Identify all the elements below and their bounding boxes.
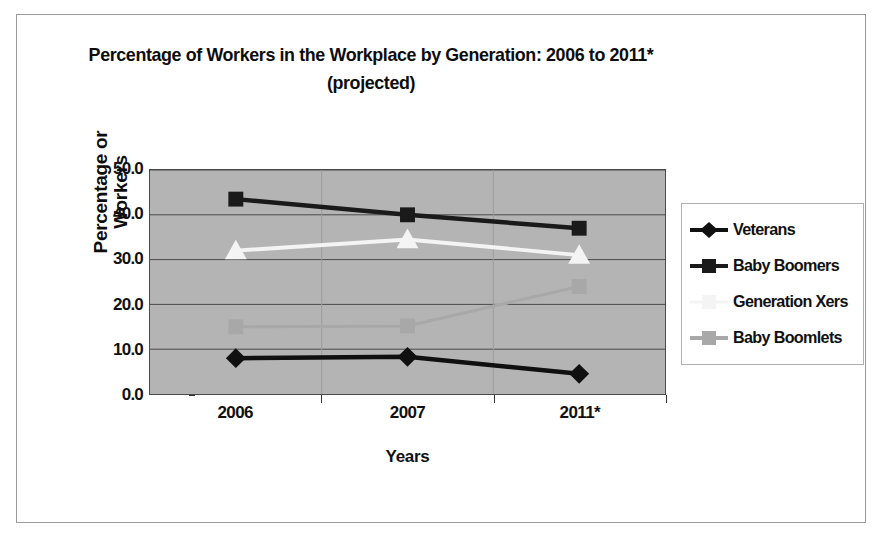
- x-axis-tick-label: 2011*: [525, 403, 635, 423]
- chart-title: Percentage of Workers in the Workplace b…: [80, 41, 663, 96]
- x-axis-tick-label: 2007: [353, 403, 463, 423]
- legend-item-baby-boomers[interactable]: Baby Boomers: [688, 248, 859, 284]
- data-point-marker: [569, 364, 589, 384]
- x-axis-tick-labels: 200620072011*: [149, 403, 666, 429]
- legend-marker-icon: [688, 256, 730, 276]
- y-axis-tick-label: 40.0: [69, 204, 143, 224]
- series-generation-xers: [225, 229, 590, 264]
- series-veterans: [226, 347, 589, 384]
- data-point-marker: [400, 318, 415, 333]
- data-point-marker: [226, 348, 246, 368]
- y-axis-tick-labels: 0.010.020.030.040.050.0: [63, 169, 143, 395]
- data-point-marker: [400, 207, 415, 222]
- x-axis-tick-mark: [494, 395, 495, 403]
- legend-item-label: Generation Xers: [733, 292, 848, 312]
- x-axis-tick-mark: [666, 395, 667, 403]
- y-axis-tick-label: 20.0: [69, 295, 143, 315]
- x-axis-tick-mark: [321, 395, 322, 403]
- legend-item-label: Baby Boomlets: [733, 328, 842, 348]
- legend-item-generation-xers[interactable]: Generation Xers: [688, 284, 859, 320]
- legend-item-label: Veterans: [733, 220, 795, 240]
- legend-marker-icon: [688, 220, 730, 240]
- data-point-marker: [228, 319, 243, 334]
- legend-item-label: Baby Boomers: [733, 256, 839, 276]
- y-axis-tick-label: 30.0: [69, 249, 143, 269]
- legend-marker-icon: [688, 328, 730, 348]
- plot-series-svg: [150, 170, 665, 394]
- y-axis-tick-mark: [189, 395, 195, 396]
- y-axis-tick-label: 50.0: [69, 159, 143, 179]
- chart-title-line-1: Percentage of Workers in the Workplace b…: [89, 44, 605, 65]
- x-axis-tick-label: 2006: [180, 403, 290, 423]
- data-point-marker: [398, 347, 418, 367]
- data-point-marker: [572, 279, 587, 294]
- y-axis-tick-label: 10.0: [69, 340, 143, 360]
- data-point-marker: [572, 221, 587, 236]
- x-axis-title: Years: [149, 447, 666, 467]
- chart-legend: VeteransBaby BoomersGeneration XersBaby …: [681, 203, 864, 365]
- chart-figure: Percentage of Workers in the Workplace b…: [16, 14, 866, 523]
- plot-area: [149, 169, 666, 395]
- series-baby-boomlets: [228, 279, 586, 334]
- y-axis-tick-label: 0.0: [69, 385, 143, 405]
- legend-item-veterans[interactable]: Veterans: [688, 212, 859, 248]
- legend-marker-icon: [688, 292, 730, 312]
- legend-item-baby-boomlets[interactable]: Baby Boomlets: [688, 320, 859, 356]
- data-point-marker: [228, 192, 243, 207]
